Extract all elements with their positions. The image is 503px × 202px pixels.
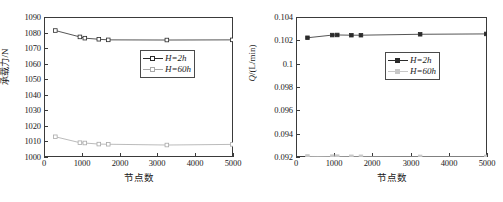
- data-point: [78, 141, 82, 145]
- data-point: [54, 29, 58, 33]
- series-layer: [251, 0, 503, 202]
- data-point: [230, 38, 234, 42]
- data-point: [330, 33, 334, 37]
- figure-canvas: 承载力/N 节点数 H=2h H=60h 1000101010201030104…: [0, 0, 503, 202]
- data-point: [165, 38, 169, 42]
- data-point: [83, 141, 87, 145]
- data-point: [230, 143, 234, 147]
- data-point: [484, 32, 488, 36]
- series-layer: [0, 0, 252, 202]
- data-point: [418, 32, 422, 36]
- data-point: [359, 155, 363, 159]
- data-point: [54, 135, 58, 139]
- data-point: [335, 33, 339, 37]
- chart-panel-right: Q/(L/min) 节点数 H=2h H=60h 0.0920.0940.096…: [251, 0, 503, 202]
- chart-panel-left: 承载力/N 节点数 H=2h H=60h 1000101010201030104…: [0, 0, 252, 202]
- data-point: [484, 155, 488, 159]
- data-point: [83, 36, 87, 40]
- data-point: [335, 155, 339, 159]
- data-point: [306, 155, 310, 159]
- data-point: [106, 142, 110, 146]
- data-point: [78, 35, 82, 39]
- data-point: [359, 33, 363, 37]
- data-point: [306, 36, 310, 40]
- data-point: [97, 142, 101, 146]
- data-point: [165, 143, 169, 147]
- data-point: [418, 155, 422, 159]
- data-point: [350, 33, 354, 37]
- data-point: [350, 155, 354, 159]
- data-point: [330, 155, 334, 159]
- data-point: [106, 38, 110, 42]
- data-point: [97, 37, 101, 41]
